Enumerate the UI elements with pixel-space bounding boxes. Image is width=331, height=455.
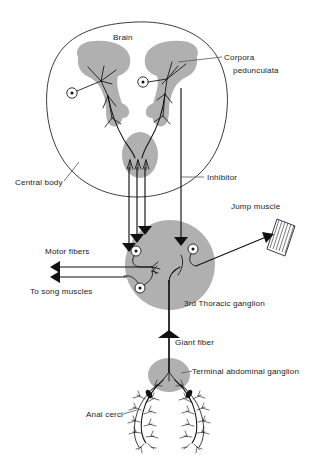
label-third-thoracic-ganglion: 3rd Thoracic ganglion — [184, 299, 265, 308]
thoracic-motor-neuron-upper-nucleus — [135, 250, 138, 253]
brain-neuron-right-nucleus — [142, 81, 145, 84]
label-corpora-pedunculata-line1: Corpora — [224, 53, 255, 62]
motor-fiber-arrowhead-1 — [50, 261, 60, 273]
thoracic-jump-neuron-nucleus — [192, 248, 195, 251]
brain-neuron-left-arbor — [77, 81, 101, 91]
cricket-nervous-system-figure: Brain Corpora pedunculata Central body I… — [0, 0, 331, 455]
label-central-body: Central body — [15, 178, 63, 187]
third-thoracic-ganglion-mass — [125, 220, 215, 310]
leader-anal-cerci — [123, 410, 137, 414]
central-body-mass — [122, 132, 158, 178]
label-giant-fiber: Giant fiber — [175, 338, 214, 347]
label-motor-fibers: Motor fibers — [45, 247, 90, 256]
thoracic-motor-neuron-lower-nucleus — [139, 287, 142, 290]
label-anal-cerci: Anal cerci — [86, 410, 123, 419]
label-to-song-muscles: To song muscles — [30, 287, 93, 296]
label-terminal-abdominal-ganglion: Terminal abdominal ganglion — [192, 367, 299, 376]
brain-neuron-left-nucleus — [71, 92, 74, 95]
label-inhibitor: Inhibitor — [207, 173, 237, 182]
label-corpora-pedunculata-line2: pedunculata — [233, 66, 279, 75]
jump-muscle-striations — [270, 220, 294, 253]
jump-muscle-bundle — [267, 219, 295, 256]
motor-fiber-arrowhead-2 — [50, 271, 60, 283]
giant-fiber-synapse-bouton — [158, 330, 180, 338]
label-jump-muscle: Jump muscle — [231, 202, 281, 211]
label-brain: Brain — [113, 33, 133, 42]
central-body-synapses — [127, 160, 149, 170]
